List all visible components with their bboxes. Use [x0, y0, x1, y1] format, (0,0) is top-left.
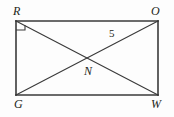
geometry-canvas [0, 0, 174, 117]
intersection-label-N: N [84, 65, 92, 77]
vertex-label-R: R [13, 5, 20, 17]
geometry-diagram: R O G W N 5 [0, 0, 174, 117]
vertex-label-W: W [151, 98, 161, 110]
segment-length-label: 5 [109, 28, 115, 39]
vertex-label-O: O [151, 5, 160, 17]
vertex-label-G: G [14, 98, 23, 110]
right-angle-icon [16, 25, 25, 30]
